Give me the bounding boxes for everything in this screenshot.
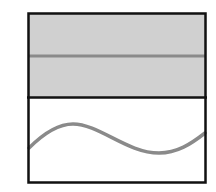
diagram-frame (27, 12, 207, 184)
diagram-svg (27, 12, 207, 184)
